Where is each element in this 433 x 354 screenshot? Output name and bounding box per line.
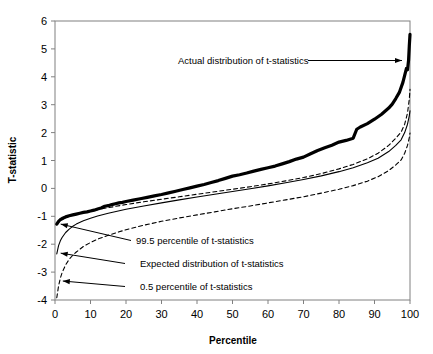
y-axis-title: T-statistic bbox=[7, 136, 18, 183]
t-statistic-percentile-chart: -4-3-2-10123456 0102030405060708090100 A… bbox=[0, 0, 433, 354]
y-tick-label: 1 bbox=[41, 155, 47, 167]
chart-container: -4-3-2-10123456 0102030405060708090100 A… bbox=[0, 0, 433, 354]
chart-background bbox=[0, 0, 433, 354]
x-tick-label: 50 bbox=[226, 308, 238, 320]
x-tick-label: 40 bbox=[191, 308, 203, 320]
chart-annotation-label: Actual distribution of t-statistics bbox=[178, 55, 309, 66]
y-tick-label: 5 bbox=[41, 43, 47, 55]
x-tick-label: 20 bbox=[120, 308, 132, 320]
x-tick-label: 0 bbox=[52, 308, 58, 320]
chart-annotation-label: 0.5 percentile of t-statistics bbox=[140, 281, 253, 292]
x-tick-label: 10 bbox=[84, 308, 96, 320]
y-tick-label: 4 bbox=[41, 71, 47, 83]
x-axis-title: Percentile bbox=[209, 335, 257, 346]
y-tick-label: 6 bbox=[41, 15, 47, 27]
chart-annotation-label: Expected distribution of t-statistics bbox=[140, 258, 284, 269]
y-tick-label: 3 bbox=[41, 99, 47, 111]
y-tick-label: -2 bbox=[37, 238, 47, 250]
chart-annotation-label: 99.5 percentile of t-statistics bbox=[136, 235, 254, 246]
y-tick-label: -4 bbox=[37, 294, 47, 306]
x-tick-label: 80 bbox=[333, 308, 345, 320]
x-tick-label: 70 bbox=[297, 308, 309, 320]
y-tick-label: -3 bbox=[37, 266, 47, 278]
x-tick-label: 60 bbox=[262, 308, 274, 320]
y-tick-label: 2 bbox=[41, 127, 47, 139]
x-tick-label: 30 bbox=[155, 308, 167, 320]
y-tick-label: 0 bbox=[41, 182, 47, 194]
y-tick-label: -1 bbox=[37, 210, 47, 222]
x-tick-label: 100 bbox=[401, 308, 419, 320]
x-tick-label: 90 bbox=[368, 308, 380, 320]
